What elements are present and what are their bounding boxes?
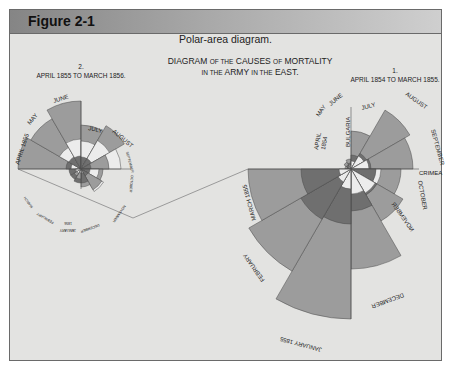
label-c2-december: DECEMBER [80,223,100,234]
label-c1-may: MAY [315,104,327,118]
label-c1-crimea: CRIMEA [419,170,442,176]
label-c1-june: JUNE [328,92,344,107]
label-c1-1854: 1854 [320,135,328,150]
label-c1-january: JANUARY 1855 [279,336,323,353]
label-c1-december: DECEMBER [370,292,405,309]
label-c2-february: FEBRUARY [35,211,54,224]
label-c1-october: OCTOBER [417,180,428,211]
label-c1-november: NOVEMBER [390,200,415,232]
label-c1-february: FEBRUARY [242,253,266,283]
label-c1-september: SEPTEMBER [430,129,446,167]
label-c1-august: AUGUST [404,91,428,110]
label-c1-july: JULY [361,101,376,110]
polar-area-charts: APRIL 1854 MAY JUNE BULGARIA JULY AUGUST… [0,0,451,371]
chart-1854-1855 [248,107,419,319]
label-c2-may: MAY [26,112,39,125]
label-c1-bulgaria: BULGARIA [345,117,351,147]
label-c2-september: SEPTEMBER [125,151,135,173]
label-c2-1856: 1856 [64,221,72,225]
label-c2-october: OCTOBER [128,175,134,193]
label-c2-january: JANUARY [59,228,76,232]
label-c2-march: MARCH [23,196,34,209]
